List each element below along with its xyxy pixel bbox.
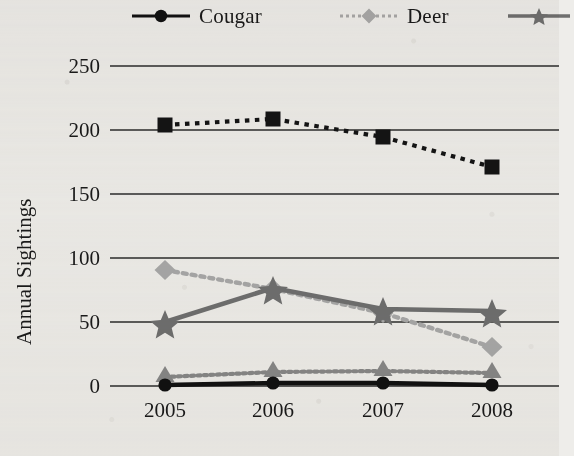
series-squares [158,112,500,175]
y-tick-label-0: 0 [10,376,100,397]
data-point-circle-2006 [266,376,279,389]
data-point-triangle-2008 [483,362,502,378]
x-tick-label-2007: 2007 [338,400,428,421]
data-point-circle-2005 [158,378,171,391]
y-tick-label-200: 200 [10,120,100,141]
data-point-circle-2008 [485,378,498,391]
data-point-triangle-2006 [264,361,283,377]
x-tick-label-2006: 2006 [228,400,318,421]
y-axis-title: Annual Sightings [14,199,35,345]
series-stars [150,276,507,339]
data-point-diamond-2005 [155,260,176,280]
data-point-star-2008 [477,299,507,328]
series-cougar [158,376,498,391]
x-tick-label-2005: 2005 [120,400,210,421]
data-point-square-2007 [376,130,391,145]
data-point-square-2006 [266,112,281,127]
data-point-star-2005 [150,310,180,339]
y-tick-label-250: 250 [10,56,100,77]
data-point-square-2005 [158,118,173,133]
data-point-circle-2007 [376,376,389,389]
x-tick-label-2008: 2008 [447,400,537,421]
data-point-triangle-2007 [374,360,393,376]
data-point-square-2008 [485,160,500,175]
data-point-diamond-2008 [482,337,503,357]
data-point-star-2006 [258,276,288,305]
series-triangles [156,360,502,382]
